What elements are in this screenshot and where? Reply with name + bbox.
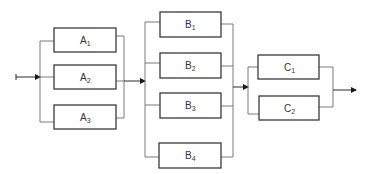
block-b4[interactable]: B4 (159, 143, 221, 168)
block-b1[interactable]: B1 (160, 12, 221, 37)
block-a1[interactable]: A1 (54, 28, 116, 52)
stage-c: C1 C2 (248, 55, 333, 120)
stage-a: A1 A2 A3 (40, 28, 124, 129)
block-c1[interactable]: C1 (258, 55, 319, 79)
input-arrow (16, 74, 40, 80)
block-b2[interactable]: B2 (160, 53, 221, 78)
stage-b: B1 B2 B3 B4 (145, 12, 233, 168)
block-c2[interactable]: C2 (259, 96, 319, 120)
block-b3[interactable]: B3 (160, 93, 221, 118)
block-a3[interactable]: A3 (54, 105, 116, 129)
reliability-diagram: A1 A2 A3 B1 B2 B3 (0, 0, 373, 174)
block-a2[interactable]: A2 (54, 65, 116, 89)
